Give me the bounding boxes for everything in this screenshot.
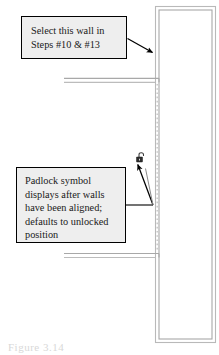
figure-container: Select this wall in Steps #10 & #13 Padl… [0, 0, 219, 355]
padlock-unlocked-icon[interactable] [135, 151, 148, 164]
padlock-keyhole [139, 159, 140, 161]
callout-select-wall: Select this wall in Steps #10 & #13 [21, 16, 127, 59]
leader-arrow-to-padlock [138, 165, 153, 206]
callout-padlock-line-3: have been aligned; [25, 201, 125, 215]
callout-select-wall-line-2: Steps #10 & #13 [31, 38, 126, 52]
callout-padlock: Padlock symbol displays after walls have… [16, 167, 126, 243]
callout-padlock-line-5: position [25, 228, 125, 242]
leader-arrow-to-wall [128, 39, 153, 53]
callout-select-wall-line-1: Select this wall in [31, 24, 126, 38]
callout-padlock-line-1: Padlock symbol [25, 174, 125, 188]
padlock-shackle [139, 153, 144, 157]
figure-caption: Figure 3.14 [8, 341, 64, 353]
callout-padlock-line-2: displays after walls [25, 188, 125, 202]
callout-padlock-line-4: defaults to unlocked [25, 215, 125, 229]
